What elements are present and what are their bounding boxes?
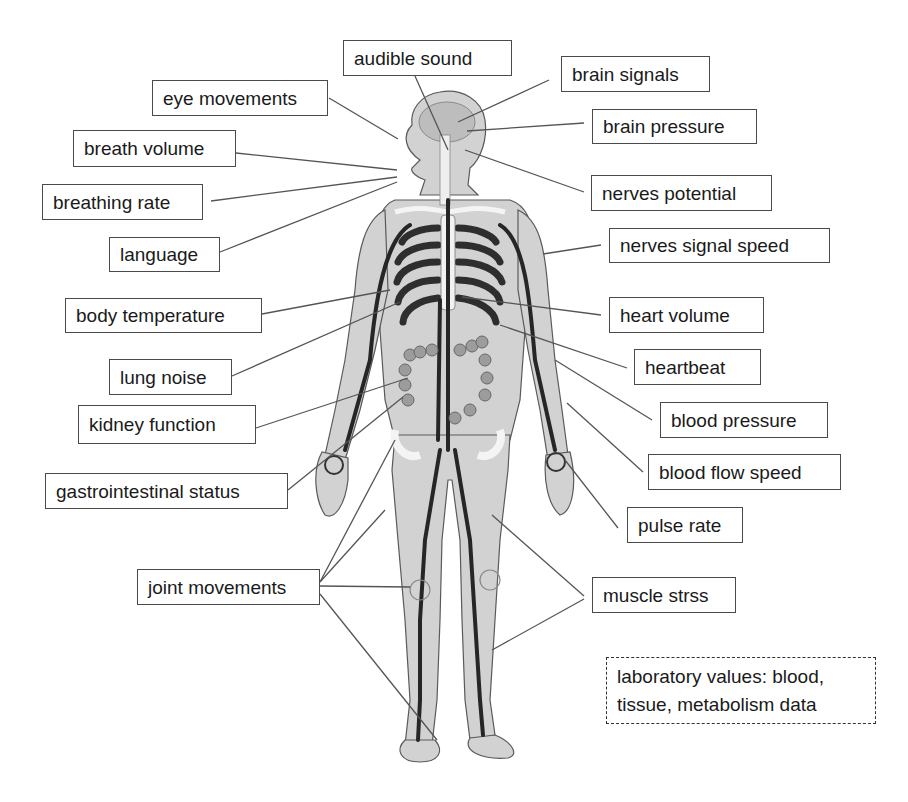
label-audible-sound: audible sound xyxy=(343,40,512,76)
label-pulse-rate: pulse rate xyxy=(627,507,743,543)
label-muscle-stress: muscle strss xyxy=(592,577,736,613)
label-text: breathing rate xyxy=(53,193,170,212)
line-muscle-calf xyxy=(492,599,584,650)
line-body-temperature xyxy=(262,290,390,314)
label-text: nerves signal speed xyxy=(620,236,789,255)
line-breathing-rate xyxy=(211,177,397,201)
label-nerves-potential: nerves potential xyxy=(591,175,772,211)
label-brain-signals: brain signals xyxy=(561,56,710,92)
line-breath-volume xyxy=(236,153,397,170)
line-brain-signals xyxy=(458,80,549,122)
label-body-temperature: body temperature xyxy=(65,298,262,333)
label-text: heart volume xyxy=(620,306,730,325)
label-heart-volume: heart volume xyxy=(609,297,764,333)
label-heartbeat: heartbeat xyxy=(634,349,761,385)
label-text: blood flow speed xyxy=(659,463,802,482)
label-kidney-function: kidney function xyxy=(78,405,256,444)
note-line-1: laboratory values: blood, xyxy=(617,663,824,691)
line-language xyxy=(220,182,397,252)
label-breathing-rate: breathing rate xyxy=(42,184,203,220)
label-text: body temperature xyxy=(76,306,225,325)
label-text: brain signals xyxy=(572,65,679,84)
line-joint-ankle xyxy=(320,594,437,740)
label-nerves-signal-speed: nerves signal speed xyxy=(609,228,830,263)
label-text: gastrointestinal status xyxy=(56,482,240,501)
line-brain-pressure xyxy=(467,123,584,131)
line-joint-knee xyxy=(320,586,410,587)
label-text: nerves potential xyxy=(602,184,736,203)
label-lung-noise: lung noise xyxy=(109,359,232,395)
line-nerves-potential xyxy=(465,150,584,192)
label-language: language xyxy=(109,237,220,272)
label-text: lung noise xyxy=(120,368,207,387)
label-text: muscle strss xyxy=(603,586,709,605)
line-heartbeat xyxy=(500,325,627,368)
line-eye-movements xyxy=(329,98,398,139)
label-text: heartbeat xyxy=(645,358,725,377)
label-eye-movements: eye movements xyxy=(152,80,328,116)
label-text: audible sound xyxy=(354,49,472,68)
line-heart-volume xyxy=(462,297,601,315)
label-text: language xyxy=(120,245,198,264)
label-text: breath volume xyxy=(84,139,204,158)
label-blood-pressure: blood pressure xyxy=(660,402,828,438)
label-text: pulse rate xyxy=(638,516,721,535)
label-text: blood pressure xyxy=(671,411,797,430)
label-breath-volume: breath volume xyxy=(73,130,236,167)
anatomy-diagram: audible sound eye movements breath volum… xyxy=(0,0,908,802)
label-text: brain pressure xyxy=(603,117,724,136)
label-brain-pressure: brain pressure xyxy=(592,109,757,144)
label-text: joint movements xyxy=(148,578,286,597)
label-gastrointestinal-status: gastrointestinal status xyxy=(45,473,288,509)
label-text: kidney function xyxy=(89,415,216,434)
label-joint-movements: joint movements xyxy=(137,569,320,605)
line-gastrointestinal-status xyxy=(288,397,403,490)
note-laboratory-values: laboratory values: blood, tissue, metabo… xyxy=(606,657,876,724)
label-blood-flow-speed: blood flow speed xyxy=(648,454,841,490)
line-kidney-function xyxy=(256,378,408,428)
line-pulse-rate xyxy=(565,460,618,528)
line-muscle-thigh xyxy=(492,515,584,596)
note-line-2: tissue, metabolism data xyxy=(617,691,817,719)
line-nerves-signal-speed xyxy=(543,245,601,254)
line-audible-sound xyxy=(415,76,448,150)
line-blood-flow-speed xyxy=(567,403,643,472)
label-text: eye movements xyxy=(163,89,297,108)
